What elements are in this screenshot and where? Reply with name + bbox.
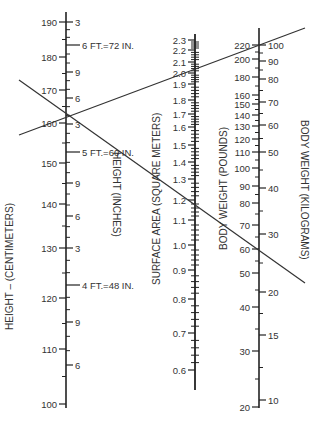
line-child [19,80,305,283]
height-cm-scale: 190180170160150140130120110100 [41,17,66,410]
tick-label: 60 [239,244,250,255]
tick-label: 150 [234,99,250,110]
tick-label: 200 [234,54,250,65]
tick-label: 2.1 [173,57,186,68]
tick-label: 190 [41,17,57,28]
tick-label: 80 [239,198,250,209]
tick-label: 9 [75,67,80,78]
tick-label: 10 [268,395,279,406]
tick-label: 110 [235,147,250,158]
tick-label: 100 [41,399,57,410]
tick-label: 70 [268,97,279,108]
tick-label: 3 [75,243,80,254]
height-inch-scale: 36 FT.=72 IN.9635 FT.=60 IN.9634 FT.=48 … [66,17,134,371]
tick-label: 130 [41,243,57,254]
tick-label: 2.2 [173,45,186,56]
tick-label: 180 [234,72,250,83]
tick-label: 0.8 [173,294,186,305]
tick-label: 140 [41,199,57,210]
tick-label: 80 [268,74,279,85]
tick-label: 1.5 [173,140,186,151]
tick-label: 70 [239,220,250,231]
tick-label: 6 [75,93,80,104]
tick-label: 9 [75,317,80,328]
tick-label: 130 [234,121,250,132]
tick-label: 1.1 [173,215,186,226]
tick-label: 1.2 [173,195,186,206]
bsa-nomogram: 190180170160150140130120110100 36 FT.=72… [0,0,321,427]
tick-label: 1.0 [173,240,186,251]
tick-label: 170 [41,85,57,96]
tick-label: 15 [268,330,279,341]
tick-label: 1.4 [173,157,186,168]
tick-label: 50 [239,268,250,279]
weight-pound-scale: 2202001801601501401301201101009080706050… [234,40,259,413]
tick-label: 0.6 [173,365,186,376]
height-cm-title: HEIGHT – (CENTIMETERS) [4,203,15,330]
tick-label: 1.7 [173,109,186,120]
tick-label: 90 [268,56,279,67]
tick-label: 9 [75,178,80,189]
tick-label: 40 [268,183,279,194]
tick-label: 50 [268,147,279,158]
reading-lines [19,28,305,283]
tick-label: 1.3 [173,174,186,185]
tick-label: 120 [41,293,57,304]
tick-label: 4 FT.=48 IN. [82,280,134,291]
tick-label: 1.9 [173,79,186,90]
tick-label: 6 [75,211,80,222]
tick-label: 160 [41,118,57,129]
tick-label: 20 [268,287,279,298]
tick-label: 110 [42,344,57,355]
tick-label: 6 FT.=72 IN. [82,40,134,51]
tick-label: 0.9 [173,265,186,276]
height-in-title: HEIGHT (INCHES) [111,152,122,237]
tick-label: 120 [234,134,250,145]
weight-kg-title: BODY WEIGHT (KILOGRAMS) [299,120,310,260]
tick-label: 3 [75,17,80,28]
tick-label: 30 [239,346,250,357]
tick-label: 60 [268,120,279,131]
line-adult [19,28,305,135]
tick-label: 1.6 [173,122,186,133]
surface-area-title: SURFACE AREA (SQUARE METERS) [151,113,162,285]
tick-label: 20 [239,402,250,413]
tick-label: 100 [234,163,250,174]
tick-label: 30 [268,229,279,240]
tick-label: 0.7 [173,328,186,339]
tick-label: 180 [41,52,57,63]
tick-label: 150 [41,158,57,169]
tick-label: 6 [75,360,80,371]
tick-label: 90 [239,181,250,192]
tick-label: 1.8 [173,95,186,106]
tick-label: 40 [239,302,250,313]
tick-label: 140 [234,110,250,121]
weight-kg-scale: 10090807060504030201510 [259,40,284,406]
weight-lb-title: BODY WEIGHT (POUNDS) [218,127,229,250]
